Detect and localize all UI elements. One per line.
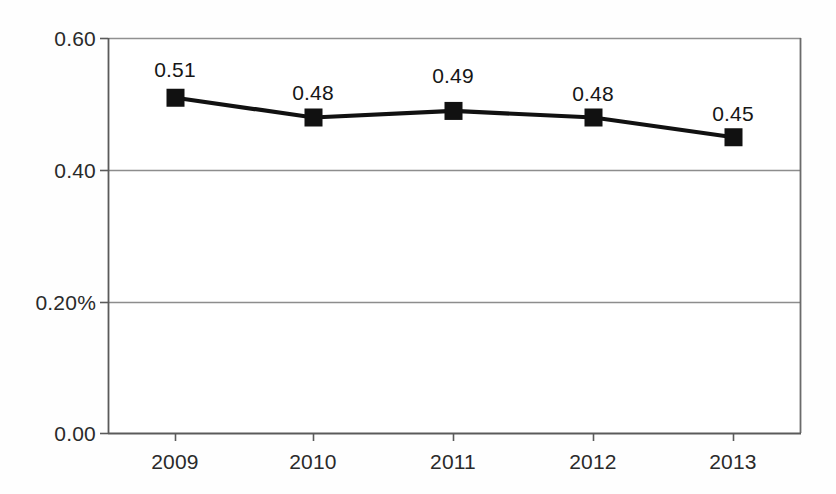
y-axis-label-020: 0.20% bbox=[8, 291, 96, 315]
data-label-2009: 0.51 bbox=[125, 58, 225, 82]
data-label-2011: 0.49 bbox=[403, 64, 503, 88]
data-point-marker-2009 bbox=[167, 89, 185, 107]
data-point-marker-2012 bbox=[585, 109, 603, 127]
data-point-marker-2011 bbox=[445, 102, 463, 120]
x-axis-label-2011: 2011 bbox=[403, 450, 503, 474]
plot-area-background bbox=[108, 38, 801, 433]
x-axis-label-2009: 2009 bbox=[125, 450, 225, 474]
y-axis-label-000: 0.00 bbox=[18, 422, 96, 446]
data-label-2013: 0.45 bbox=[683, 102, 783, 126]
x-axis-label-2012: 2012 bbox=[543, 450, 643, 474]
data-point-marker-2010 bbox=[305, 109, 323, 127]
data-label-2012: 0.48 bbox=[543, 82, 643, 106]
data-point-marker-2013 bbox=[725, 128, 743, 146]
data-label-2010: 0.48 bbox=[263, 81, 363, 105]
x-axis-label-2013: 2013 bbox=[683, 450, 783, 474]
y-axis-label-040: 0.40 bbox=[18, 159, 96, 183]
line-chart: 0.60 0.40 0.20% 0.00 2009 2010 2011 2012… bbox=[0, 0, 836, 494]
y-axis-label-060: 0.60 bbox=[18, 27, 96, 51]
x-axis-label-2010: 2010 bbox=[263, 450, 363, 474]
